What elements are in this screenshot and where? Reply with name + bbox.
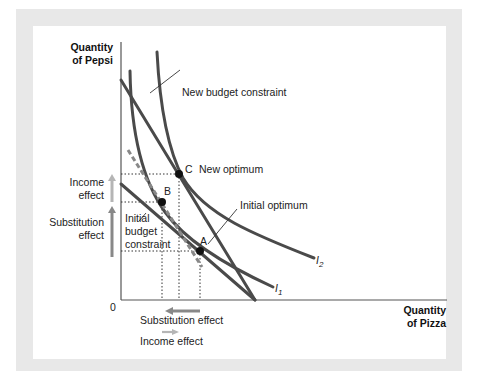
- vertical-substitution-arrow: [108, 206, 116, 257]
- vertical-income-label-line2: effect: [79, 189, 105, 201]
- new-optimum-label: New optimum: [199, 163, 263, 175]
- x-axis-label-line2: of Pizza: [407, 317, 446, 329]
- vertical-income-label-line1: Income: [70, 176, 105, 188]
- y-axis-label-line1: Quantity: [70, 41, 113, 53]
- point-a: [196, 247, 204, 255]
- new-budget-label: New budget constraint: [182, 86, 287, 98]
- diagram-canvas: Quantity of Pepsi Quantity of Pizza 0 I2…: [0, 0, 477, 378]
- indifference-curve-2: [157, 52, 314, 258]
- initial-budget-label-line2: budget: [125, 225, 157, 237]
- x-axis-label-line1: Quantity: [403, 304, 446, 316]
- horizontal-substitution-label: Substitution effect: [140, 314, 223, 326]
- point-a-label: A: [200, 235, 207, 247]
- initial-optimum-label: Initial optimum: [240, 199, 308, 211]
- leader-new-budget: [150, 70, 180, 93]
- new-budget-line: [121, 80, 255, 300]
- i2-label: I2: [316, 254, 324, 269]
- i1-label: I1: [275, 282, 282, 297]
- point-b: [158, 198, 166, 206]
- horizontal-income-label: Income effect: [140, 335, 203, 347]
- vertical-substitution-label-line2: effect: [79, 229, 105, 241]
- point-b-label: B: [164, 185, 171, 197]
- vertical-income-arrow: [108, 174, 116, 202]
- y-axis-label-line2: of Pepsi: [72, 54, 113, 66]
- vertical-substitution-label-line1: Substitution: [49, 216, 104, 228]
- point-c-label: C: [185, 163, 193, 175]
- point-c: [175, 170, 183, 178]
- initial-budget-label-line1: Initial: [125, 212, 150, 224]
- origin-label: 0: [110, 301, 116, 313]
- leader-initial-optimum: [208, 209, 237, 244]
- initial-budget-label-line3: constraint: [125, 238, 171, 250]
